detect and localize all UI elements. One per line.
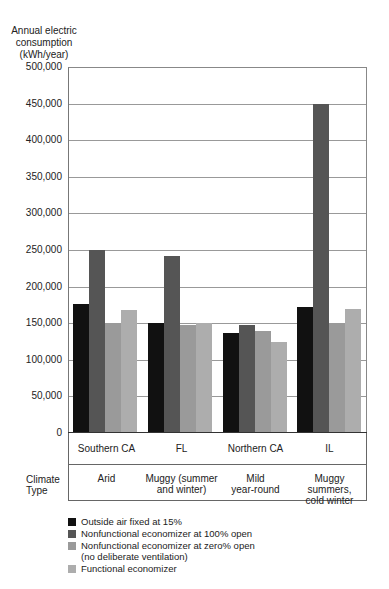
- row-label-line: Climate: [26, 474, 60, 485]
- y-tick-label: 250,000: [26, 244, 62, 256]
- y-tick-label: 300,000: [26, 207, 62, 219]
- bar: [148, 323, 164, 433]
- climate-type-label: Climate Type: [26, 474, 60, 496]
- bar: [329, 323, 345, 433]
- y-tick-label: 400,000: [26, 134, 62, 146]
- climate-line: year-round: [218, 484, 293, 495]
- y-tick-label: 0: [56, 427, 62, 439]
- bar: [271, 342, 287, 433]
- y-tick-label: 500,000: [26, 61, 62, 73]
- legend-item: Nonfunctional economizer at zero% open(n…: [68, 540, 255, 562]
- legend-label: Nonfunctional economizer at zero% open: [81, 540, 255, 551]
- bar: [164, 256, 180, 433]
- legend-swatch-icon: [68, 518, 76, 526]
- bar: [345, 309, 361, 433]
- y-tick-label: 350,000: [26, 171, 62, 183]
- legend-label: Functional economizer: [81, 563, 255, 574]
- climate-cell: Arid: [69, 473, 144, 484]
- legend-item: Nonfunctional economizer at 100% open: [68, 528, 255, 539]
- bar: [196, 323, 212, 433]
- legend-item: Functional economizer: [68, 563, 255, 574]
- bar: [255, 331, 271, 433]
- legend-swatch-icon: [68, 530, 76, 538]
- location-cell: FL: [144, 443, 219, 454]
- climate-cell: Muggy (summer and winter): [144, 473, 219, 495]
- bar: [121, 310, 137, 433]
- legend-label: Nonfunctional economizer at 100% open: [81, 528, 255, 539]
- legend-label: Outside air fixed at 15%: [81, 516, 255, 527]
- plot-area: [68, 67, 367, 433]
- y-axis-title: Annual electric consumption (kWh/year): [2, 25, 86, 61]
- climate-line: Muggy (summer: [144, 473, 219, 484]
- bar: [73, 304, 89, 433]
- legend-swatch-icon: [68, 542, 76, 550]
- bar: [89, 250, 105, 433]
- y-tick-label: 100,000: [26, 354, 62, 366]
- climate-cell: Muggy summers, cold winter: [292, 473, 367, 506]
- y-tick-label: 450,000: [26, 98, 62, 110]
- y-tick-label: 50,000: [31, 390, 62, 402]
- climate-line: Arid: [69, 473, 144, 484]
- y-axis-title-line: Annual electric: [2, 25, 86, 37]
- climate-line: cold winter: [292, 495, 367, 506]
- location-cell: Southern CA: [69, 443, 144, 454]
- legend-label: (no deliberate ventilation): [81, 551, 255, 562]
- climate-cell: Mild year-round: [218, 473, 293, 495]
- climate-line: Mild: [218, 473, 293, 484]
- location-row: Southern CA FL Northern CA IL: [69, 433, 366, 465]
- location-cell: Northern CA: [218, 443, 293, 454]
- climate-line: and winter): [144, 484, 219, 495]
- y-axis-title-line: consumption: [2, 37, 86, 49]
- legend-swatch-icon: [68, 565, 76, 573]
- bar: [313, 104, 329, 433]
- category-table: Southern CA FL Northern CA IL Arid Muggy…: [68, 433, 367, 501]
- bar: [223, 333, 239, 433]
- bar: [180, 325, 196, 433]
- y-tick-label: 200,000: [26, 281, 62, 293]
- bar: [297, 307, 313, 433]
- row-label-line: Type: [26, 485, 60, 496]
- legend: Outside air fixed at 15%Nonfunctional ec…: [68, 516, 255, 575]
- bar: [239, 325, 255, 433]
- y-tick-label: 150,000: [26, 317, 62, 329]
- location-cell: IL: [292, 443, 367, 454]
- y-axis-title-line: (kWh/year): [2, 49, 86, 61]
- climate-line: Muggy summers,: [292, 473, 367, 495]
- bar: [105, 323, 121, 433]
- legend-item: Outside air fixed at 15%: [68, 516, 255, 527]
